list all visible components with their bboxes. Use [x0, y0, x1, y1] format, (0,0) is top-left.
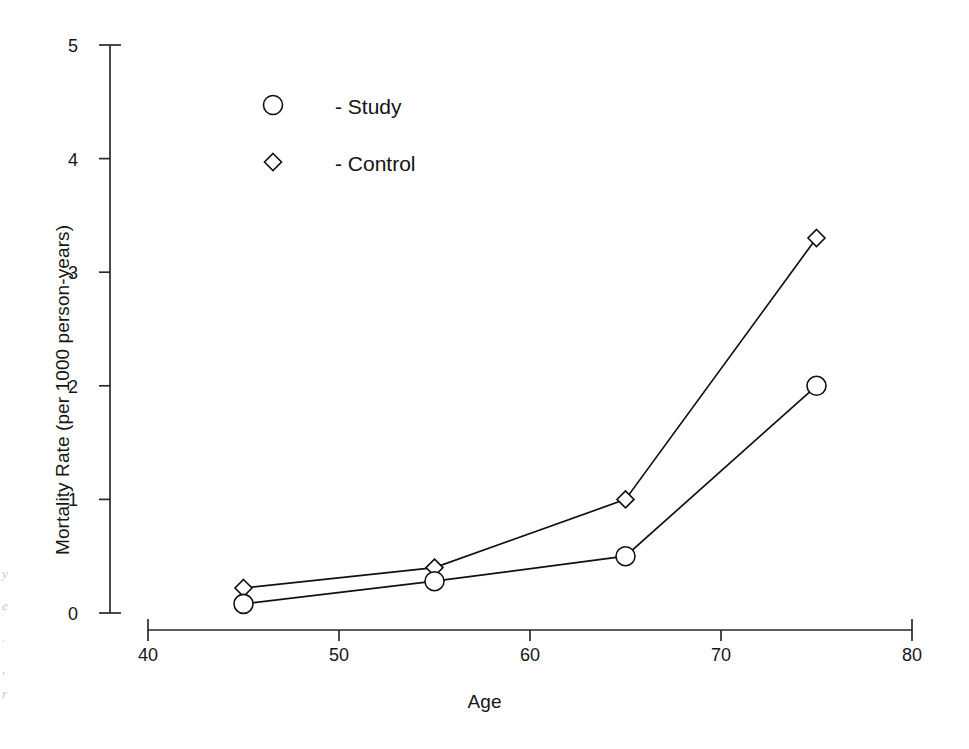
series-study: [234, 376, 826, 613]
series-control: [235, 230, 825, 597]
chart-figure: y e . , r Mortality Rate (per 1000 perso…: [0, 0, 969, 749]
legend-diamond-marker: [265, 154, 282, 171]
diamond-marker: [808, 230, 825, 247]
study-line: [244, 386, 817, 604]
diamond-marker: [617, 491, 634, 508]
circle-marker: [234, 594, 253, 613]
study-markers: [234, 376, 826, 613]
control-line: [244, 238, 817, 588]
axes-group: [99, 45, 912, 641]
legend-circle-marker: [264, 96, 283, 115]
circle-marker: [616, 547, 635, 566]
circle-marker: [425, 572, 444, 591]
control-markers: [235, 230, 825, 597]
plot-canvas: [0, 0, 969, 749]
circle-marker: [807, 376, 826, 395]
legend-markers: [264, 96, 283, 171]
